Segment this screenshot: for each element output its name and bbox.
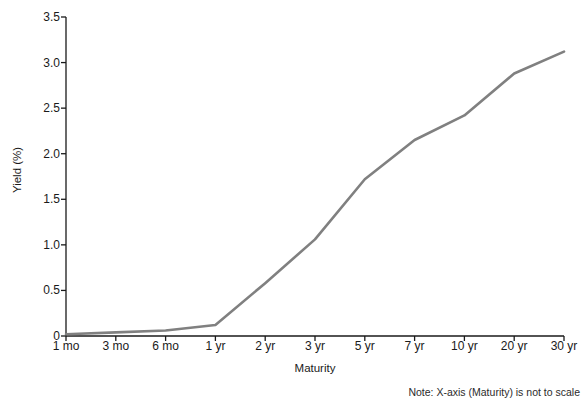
plot-svg bbox=[66, 17, 564, 336]
x-axis-tick-label: 1 mo bbox=[53, 340, 80, 352]
y-axis-tick-label: 3.0 bbox=[30, 57, 60, 69]
x-axis-tick-labels: 1 mo3 mo6 mo1 yr2 yr3 yr5 yr7 yr10 yr20 … bbox=[66, 340, 564, 360]
x-axis-tick-label: 30 yr bbox=[551, 340, 578, 352]
x-axis-tick-label: 3 yr bbox=[305, 340, 325, 352]
y-axis-title: Yield (%) bbox=[6, 0, 28, 340]
x-axis-tick-label: 10 yr bbox=[451, 340, 478, 352]
x-axis-tick-label: 2 yr bbox=[255, 340, 275, 352]
y-axis-title-label: Yield (%) bbox=[11, 147, 23, 193]
y-axis-ticks bbox=[61, 17, 66, 336]
y-axis-tick-label: 1.0 bbox=[30, 239, 60, 251]
y-axis-tick-label: 2.0 bbox=[30, 148, 60, 160]
x-axis-tick-label: 1 yr bbox=[205, 340, 225, 352]
x-axis-tick-label: 5 yr bbox=[355, 340, 375, 352]
chart-note-text: Note: X-axis (Maturity) is not to scale bbox=[408, 386, 580, 398]
x-axis-title: Maturity bbox=[66, 362, 564, 374]
x-axis-tick-label: 6 mo bbox=[152, 340, 179, 352]
x-axis-tick-label: 7 yr bbox=[405, 340, 425, 352]
y-axis-tick-label: 2.5 bbox=[30, 102, 60, 114]
y-axis-tick-label: 3.5 bbox=[30, 11, 60, 23]
yield-curve-line bbox=[66, 52, 564, 335]
x-axis-tick-label: 3 mo bbox=[102, 340, 129, 352]
y-axis-tick-label: 1.5 bbox=[30, 193, 60, 205]
x-axis-tick-label: 20 yr bbox=[501, 340, 528, 352]
plot-area bbox=[66, 17, 564, 336]
y-axis-tick-label: 0.5 bbox=[30, 284, 60, 296]
yield-curve-chart: Yield (%) 00.51.01.52.02.53.03.5 1 mo3 m… bbox=[0, 0, 588, 414]
chart-note: Note: X-axis (Maturity) is not to scale bbox=[408, 386, 580, 398]
x-axis-title-label: Maturity bbox=[295, 362, 336, 374]
